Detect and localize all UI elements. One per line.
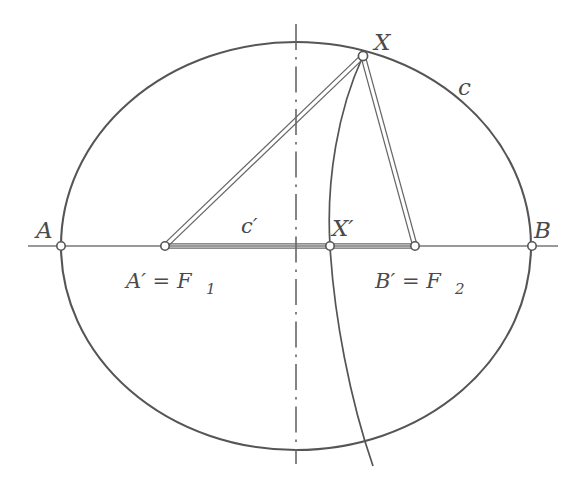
geometry-figure: c A B X X′ c′ A′ = F 1 B′ = F 2	[0, 0, 571, 480]
label-focus-2-subscript: 2	[454, 280, 465, 298]
label-point-x: X	[372, 29, 392, 55]
point-marker-x	[358, 51, 367, 60]
point-marker-a-prime-f1	[161, 242, 169, 250]
label-point-b: B	[533, 217, 551, 243]
label-point-x-prime: X′	[330, 215, 354, 241]
label-focus-1-subscript: 1	[206, 280, 216, 298]
label-ellipse-c: c	[458, 74, 471, 100]
label-point-a: A	[34, 217, 53, 243]
point-marker-b-prime-f2	[411, 242, 419, 250]
segment-x-to-focus2-edge-a	[361, 57, 413, 247]
point-marker-b	[528, 242, 536, 250]
label-focus-1: A′ = F 1	[124, 269, 216, 298]
ellipse-construction-diagram: c A B X X′ c′ A′ = F 1 B′ = F 2	[0, 0, 571, 480]
point-marker-x-prime	[326, 242, 334, 250]
label-focus-2: B′ = F 2	[374, 269, 465, 298]
label-focus-1-text: A′ = F	[124, 269, 193, 293]
segment-x-to-focus2-edge-b	[365, 55, 417, 245]
label-focus-2-text: B′ = F	[374, 269, 442, 293]
arc-c-prime-curve	[329, 56, 373, 466]
label-arc-c-prime: c′	[241, 214, 258, 238]
segment-x-to-focus2	[361, 55, 417, 246]
point-marker-a	[57, 242, 65, 250]
